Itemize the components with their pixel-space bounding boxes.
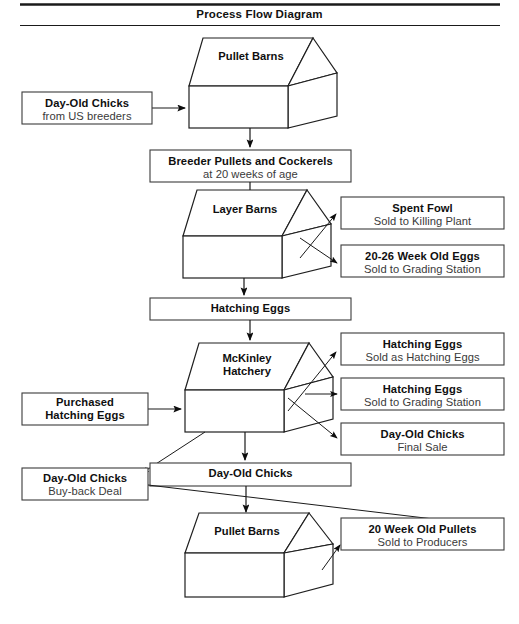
process-flow-diagram: Process Flow Diagram Day-Old Chicks from… (0, 0, 519, 624)
box-day-old-chicks-final (341, 423, 504, 455)
box-breeder-pullets (150, 150, 351, 182)
box-hatching-eggs (150, 298, 351, 320)
box-week-old-eggs (341, 245, 504, 277)
box-spent-fowl (341, 197, 504, 229)
page-title: Process Flow Diagram (0, 8, 519, 20)
barn-shape-pullet-barns-bottom (185, 513, 333, 597)
diagram-canvas (0, 0, 519, 624)
barn-shape-mckinley-hatchery (185, 343, 333, 432)
box-day-old-chicks-buyback (22, 468, 148, 500)
box-day-old-chicks-us (22, 92, 152, 124)
barn-shape-pullet-barns-top (189, 38, 337, 128)
box-week-old-pullets (341, 518, 504, 550)
box-day-old-chicks-mid (150, 463, 351, 486)
barn-shape-layer-barns (183, 190, 331, 278)
box-purchased-hatching-eggs (22, 393, 148, 425)
box-hatching-eggs-grading (341, 378, 504, 410)
box-hatching-eggs-sold-as (341, 333, 504, 365)
